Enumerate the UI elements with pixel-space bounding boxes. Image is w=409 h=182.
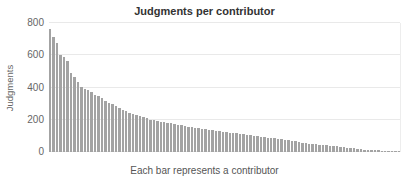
contributor-bar — [104, 101, 106, 152]
y-tick-label: 600 — [0, 49, 44, 61]
contributor-bar — [122, 110, 124, 152]
contributor-bar — [298, 142, 300, 152]
contributor-bar — [80, 87, 82, 152]
contributor-bar — [156, 121, 158, 152]
contributor-bar — [294, 141, 296, 152]
contributor-bar — [177, 125, 179, 152]
contributor-bar — [204, 129, 206, 152]
contributor-bar — [173, 124, 175, 152]
contributor-bar — [336, 146, 338, 152]
contributor-bar — [277, 139, 279, 152]
contributor-bar — [194, 128, 196, 153]
contributor-bar — [149, 120, 151, 152]
contributor-bar — [249, 135, 251, 152]
contributor-bar — [273, 138, 275, 152]
contributor-bar — [363, 150, 365, 152]
contributor-bar — [77, 82, 79, 152]
contributor-bar — [160, 122, 162, 152]
contributor-bar — [394, 151, 396, 152]
contributor-bar — [332, 146, 334, 152]
contributor-bar — [280, 139, 282, 152]
contributor-bar — [139, 116, 141, 152]
contributor-bar — [284, 140, 286, 152]
contributor-bar — [201, 129, 203, 152]
contributor-bar — [94, 95, 96, 152]
chart-title: Judgments per contributor — [0, 5, 409, 17]
contributor-bar — [170, 123, 172, 152]
contributor-bar — [218, 131, 220, 152]
contributor-bar — [329, 146, 331, 152]
contributor-bar — [70, 73, 72, 152]
contributor-bar — [180, 125, 182, 152]
contributor-bar — [253, 136, 255, 152]
contributor-bar — [222, 132, 224, 152]
contributor-bar — [56, 43, 58, 152]
contributor-bar — [346, 148, 348, 153]
contributor-bar — [377, 150, 379, 152]
contributor-bar — [191, 127, 193, 152]
contributor-bar — [315, 144, 317, 152]
contributor-bar — [308, 144, 310, 152]
contributor-bar — [163, 122, 165, 152]
contributor-bar — [87, 90, 89, 152]
contributor-bar — [166, 123, 168, 152]
contributor-bar — [229, 133, 231, 153]
contributor-bar — [187, 127, 189, 152]
contributor-bar — [374, 150, 376, 152]
contributor-bar — [63, 57, 65, 152]
contributor-bar — [287, 140, 289, 152]
contributor-bar — [49, 29, 51, 152]
x-axis-caption: Each bar represents a contributor — [0, 165, 409, 176]
contributor-bar — [367, 150, 369, 152]
contributor-bar — [246, 135, 248, 152]
contributor-bar — [235, 133, 237, 152]
chart-container: Judgments per contributor Judgments 0200… — [0, 0, 409, 182]
contributor-bar — [322, 145, 324, 152]
contributor-bar — [197, 128, 199, 152]
contributor-bar — [142, 117, 144, 152]
contributor-bar — [256, 136, 258, 152]
contributor-bar — [398, 151, 400, 152]
y-tick-label: 800 — [0, 17, 44, 29]
contributor-bar — [381, 151, 383, 152]
contributor-bar — [90, 92, 92, 152]
contributor-bar — [305, 143, 307, 152]
plot-area — [49, 23, 401, 152]
contributor-bar — [66, 61, 68, 152]
contributor-bar — [356, 149, 358, 152]
contributor-bar — [59, 55, 61, 152]
contributor-bar — [132, 114, 134, 152]
contributor-bar — [370, 150, 372, 152]
contributor-bar — [339, 147, 341, 152]
contributor-bar — [52, 37, 54, 152]
contributor-bar — [115, 106, 117, 152]
contributor-bar — [208, 130, 210, 152]
contributor-bar — [84, 89, 86, 152]
contributor-bar — [267, 138, 269, 153]
contributor-bar — [325, 145, 327, 152]
contributor-bar — [225, 132, 227, 152]
y-tick-label: 400 — [0, 82, 44, 94]
contributor-bar — [232, 133, 234, 152]
contributor-bar — [343, 147, 345, 152]
bar-series — [49, 23, 400, 152]
contributor-bar — [349, 148, 351, 152]
contributor-bar — [263, 137, 265, 152]
contributor-bar — [215, 131, 217, 152]
contributor-bar — [291, 141, 293, 152]
contributor-bar — [111, 104, 113, 152]
contributor-bar — [184, 126, 186, 152]
contributor-bar — [318, 145, 320, 152]
contributor-bar — [97, 96, 99, 152]
contributor-bar — [135, 115, 137, 152]
y-tick-label: 200 — [0, 114, 44, 126]
contributor-bar — [353, 148, 355, 152]
contributor-bar — [125, 111, 127, 152]
contributor-bar — [387, 151, 389, 152]
contributor-bar — [108, 103, 110, 152]
contributor-bar — [146, 118, 148, 152]
contributor-bar — [101, 98, 103, 152]
contributor-bar — [311, 144, 313, 152]
contributor-bar — [153, 120, 155, 152]
contributor-bar — [360, 149, 362, 152]
